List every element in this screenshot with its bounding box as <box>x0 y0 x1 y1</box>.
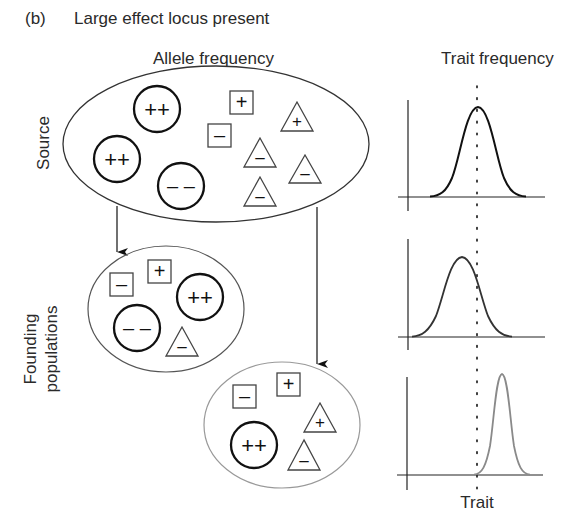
svg-text:+: + <box>315 413 325 432</box>
svg-text:++: ++ <box>104 147 130 172</box>
svg-text:–: – <box>300 164 310 183</box>
small-effect-square-minus: – <box>233 385 256 408</box>
svg-text:+: + <box>283 373 295 395</box>
svg-text:–: – <box>299 451 309 470</box>
svg-text:–: – <box>214 124 226 146</box>
svg-text:++: ++ <box>241 433 267 458</box>
founding-row-label-line1: Founding <box>21 314 40 385</box>
small-effect-triangle-minus: – <box>288 440 320 470</box>
small-effect-triangle-minus: – <box>289 155 321 183</box>
trait-plot-source <box>398 100 545 211</box>
small-effect-triangle-plus: + <box>281 102 313 131</box>
large-effect-allele-minus-minus: – – <box>158 163 204 209</box>
small-effect-triangle-minus: – <box>244 138 276 167</box>
svg-text:+: + <box>292 112 302 131</box>
trait-frequency-header: Trait frequency <box>441 49 554 68</box>
small-effect-triangle-minus: – <box>166 327 198 356</box>
svg-text:++: ++ <box>144 97 170 122</box>
figure-title: Large effect locus present <box>74 9 270 28</box>
svg-text:++: ++ <box>187 285 213 310</box>
source-population: ++ ++ – – + – + – – <box>63 66 369 222</box>
large-effect-allele-plus-plus: ++ <box>177 274 223 320</box>
svg-text:–: – <box>177 337 187 356</box>
svg-text:–: – <box>116 273 128 295</box>
diagram-canvas: (b) Large effect locus present Allele fr… <box>0 0 574 524</box>
trait-plot-founding-1 <box>398 239 545 350</box>
large-effect-allele-plus-plus: ++ <box>94 136 140 182</box>
panel-label: (b) <box>25 9 46 28</box>
svg-text:+: + <box>154 260 166 282</box>
trait-axis-label: Trait <box>460 493 494 512</box>
large-effect-allele-plus-plus: ++ <box>134 86 180 132</box>
small-effect-square-minus: – <box>110 273 133 296</box>
small-effect-square-plus: + <box>277 373 300 396</box>
small-effect-square-minus: – <box>208 124 231 147</box>
trait-plot-founding-2 <box>397 374 543 490</box>
source-trait-curve <box>430 107 526 197</box>
svg-text:+: + <box>236 91 248 113</box>
small-effect-triangle-minus: – <box>244 177 276 206</box>
founding-1-trait-curve <box>412 257 512 337</box>
svg-text:– –: – – <box>123 317 152 339</box>
small-effect-square-plus: + <box>230 91 253 114</box>
allele-frequency-header: Allele frequency <box>153 49 274 68</box>
founding-row-label-line2: populations <box>42 306 61 393</box>
small-effect-square-plus: + <box>148 260 171 283</box>
source-row-label: Source <box>34 116 53 170</box>
founding-population-1: – + ++ – – – <box>88 246 244 372</box>
svg-text:– –: – – <box>167 175 196 197</box>
svg-text:–: – <box>239 385 251 407</box>
svg-text:–: – <box>255 187 265 206</box>
small-effect-triangle-plus: + <box>304 403 336 432</box>
founding-population-2: – + + ++ – <box>204 362 360 488</box>
large-effect-allele-plus-plus: ++ <box>231 422 277 468</box>
founding-2-trait-curve <box>474 374 530 475</box>
large-effect-allele-minus-minus: – – <box>114 305 160 351</box>
svg-text:–: – <box>255 148 265 167</box>
